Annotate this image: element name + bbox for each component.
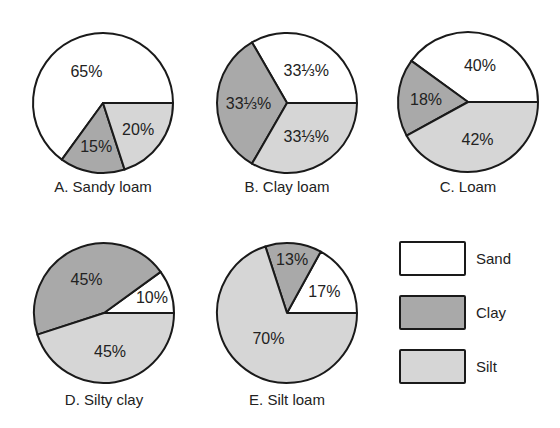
slice-label-silt: 33⅓%	[284, 128, 329, 145]
legend-label-sand: Sand	[476, 250, 511, 267]
legend-swatch-clay	[400, 296, 465, 329]
pie-chart-e-silt-loam: 17%13%70%E. Silt loam	[217, 243, 357, 408]
legend-label-silt: Silt	[476, 358, 498, 375]
slice-label-sand: 40%	[464, 57, 496, 74]
slice-label-clay: 45%	[71, 271, 103, 288]
slice-label-sand: 10%	[136, 289, 168, 306]
pie-title: E. Silt loam	[249, 391, 325, 408]
slice-label-sand: 33⅓%	[284, 62, 329, 79]
slice-label-silt: 42%	[462, 131, 494, 148]
slice-label-clay: 13%	[276, 251, 308, 268]
pie-chart-b-clay-loam: 33⅓%33⅓%33⅓%B. Clay loam	[217, 33, 357, 195]
slice-label-silt: 45%	[94, 343, 126, 360]
legend: SandClaySilt	[400, 242, 511, 383]
legend-swatch-sand	[400, 242, 465, 275]
pie-chart-c-loam: 40%18%42%C. Loam	[398, 32, 538, 195]
slice-label-silt: 20%	[122, 121, 154, 138]
slice-label-clay: 18%	[410, 91, 442, 108]
pie-title: B. Clay loam	[244, 178, 329, 195]
slice-label-sand: 17%	[308, 283, 340, 300]
legend-swatch-silt	[400, 350, 465, 383]
legend-label-clay: Clay	[476, 304, 507, 321]
slice-label-sand: 65%	[70, 63, 102, 80]
slice-label-silt: 70%	[252, 330, 284, 347]
slice-label-clay: 15%	[80, 138, 112, 155]
pie-chart-a-sandy-loam: 65%15%20%A. Sandy loam	[33, 33, 173, 195]
slice-label-clay: 33⅓%	[226, 95, 271, 112]
pie-title: C. Loam	[440, 178, 497, 195]
pie-title: D. Silty clay	[65, 391, 144, 408]
pie-chart-d-silty-clay: 10%45%45%D. Silty clay	[34, 243, 174, 408]
soil-texture-pie-charts: 65%15%20%A. Sandy loam33⅓%33⅓%33⅓%B. Cla…	[0, 0, 560, 428]
pie-title: A. Sandy loam	[54, 178, 152, 195]
